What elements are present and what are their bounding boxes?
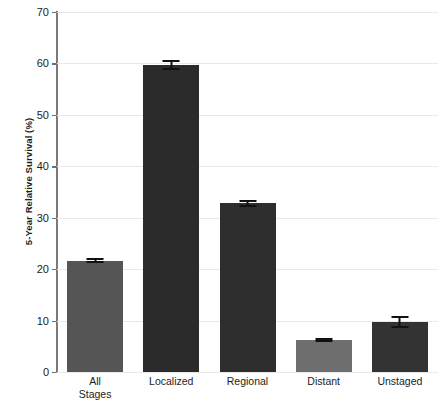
x-axis-tick-labels: AllStagesLocalizedRegionalDistantUnstage… bbox=[57, 375, 438, 407]
y-tick-label: 70 bbox=[37, 6, 49, 18]
y-tick-label: 20 bbox=[37, 263, 49, 275]
error-bar-cap-top bbox=[239, 200, 256, 202]
error-bar-cap-bottom bbox=[163, 68, 180, 70]
error-bar bbox=[95, 258, 96, 263]
bar-group[interactable] bbox=[372, 12, 428, 372]
x-tick-label: Localized bbox=[133, 375, 209, 388]
y-tick-mark bbox=[52, 63, 56, 64]
error-bar-cap-top bbox=[163, 60, 180, 62]
bar[interactable] bbox=[296, 340, 352, 372]
y-tick-mark bbox=[52, 115, 56, 116]
bar[interactable] bbox=[67, 261, 123, 372]
y-tick-label: 30 bbox=[37, 212, 49, 224]
bar[interactable] bbox=[143, 65, 199, 372]
bar-chart: 5-Year Relative Survival (%) 01020304050… bbox=[0, 0, 439, 407]
y-axis-label: 5-Year Relative Survival (%) bbox=[23, 82, 34, 282]
bar[interactable] bbox=[372, 322, 428, 372]
y-tick-mark bbox=[52, 166, 56, 167]
y-tick-label: 0 bbox=[43, 366, 49, 378]
x-tick-label: Regional bbox=[209, 375, 285, 388]
bar-group[interactable] bbox=[220, 12, 276, 372]
bar-series bbox=[57, 12, 438, 372]
y-tick-label: 40 bbox=[37, 160, 49, 172]
x-tick-label: AllStages bbox=[57, 375, 133, 400]
error-bar-cap-bottom bbox=[239, 205, 256, 207]
bar-group[interactable] bbox=[296, 12, 352, 372]
y-tick-label: 50 bbox=[37, 109, 49, 121]
x-tick-label: Distant bbox=[286, 375, 362, 388]
error-bar-cap-top bbox=[87, 258, 104, 260]
bar-group[interactable] bbox=[67, 12, 123, 372]
y-tick-label: 10 bbox=[37, 315, 49, 327]
y-axis-label-container: 5-Year Relative Survival (%) bbox=[0, 0, 26, 372]
error-bar bbox=[171, 60, 172, 69]
bar-group[interactable] bbox=[143, 12, 199, 372]
y-tick-mark bbox=[52, 321, 56, 322]
plot-area: 010203040506070 bbox=[57, 12, 438, 372]
error-bar bbox=[323, 338, 324, 342]
error-bar-cap-bottom bbox=[87, 261, 104, 263]
error-bar-cap-bottom bbox=[391, 326, 408, 328]
error-bar-cap-top bbox=[391, 316, 408, 318]
bar[interactable] bbox=[220, 203, 276, 372]
error-bar bbox=[399, 316, 400, 328]
error-bar-cap-bottom bbox=[315, 340, 332, 342]
y-tick-mark bbox=[52, 218, 56, 219]
y-tick-mark bbox=[52, 372, 56, 373]
y-tick-label: 60 bbox=[37, 57, 49, 69]
gridline bbox=[57, 372, 438, 373]
y-tick-mark bbox=[52, 12, 56, 13]
y-tick-mark bbox=[52, 269, 56, 270]
x-tick-label: Unstaged bbox=[362, 375, 438, 388]
error-bar bbox=[247, 200, 248, 207]
